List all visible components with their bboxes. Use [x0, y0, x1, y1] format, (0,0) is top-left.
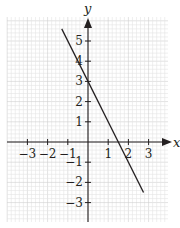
x-tick-label: −3: [19, 147, 37, 161]
y-tick-label: 3: [75, 74, 83, 88]
y-axis-label: y: [83, 1, 92, 16]
axes: x y: [7, 1, 180, 222]
y-tick-label: 5: [75, 34, 83, 48]
y-tick-label: 4: [75, 54, 83, 68]
x-axis-label: x: [173, 135, 180, 150]
y-axis-arrow-icon: [84, 18, 92, 28]
y-tick-label: −3: [65, 196, 83, 210]
line-graph: x y −3−2−1123−3−2−112345: [0, 0, 180, 228]
x-tick-label: 3: [145, 147, 153, 161]
x-tick-label: 2: [125, 147, 133, 161]
y-tick-label: −2: [65, 175, 83, 189]
y-tick-label: 2: [75, 95, 83, 109]
x-tick-label: 1: [104, 147, 112, 161]
y-tick-label: −1: [65, 155, 83, 169]
x-tick-label: −2: [39, 147, 57, 161]
x-axis-arrow-icon: [162, 138, 172, 146]
y-tick-label: 1: [75, 115, 83, 129]
